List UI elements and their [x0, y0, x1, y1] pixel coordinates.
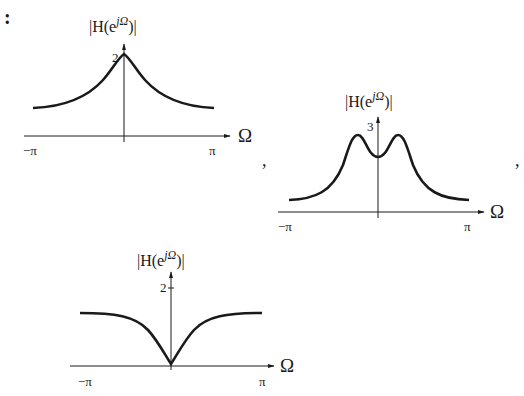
- plot-1-lowpass: |H(ejΩ)| 2 Ω −π π: [23, 14, 252, 158]
- x-tick-pi: π: [464, 219, 471, 234]
- separator-comma-2: ,: [515, 150, 520, 170]
- x-tick-neg-pi: −π: [278, 219, 292, 234]
- x-axis-label: Ω: [280, 355, 294, 376]
- x-tick-pi: π: [259, 374, 266, 389]
- magnitude-curve: [289, 135, 469, 200]
- y-axis-label: |H(ejΩ)|: [89, 14, 137, 36]
- x-axis-label: Ω: [490, 201, 504, 222]
- y-tick-2: 2: [112, 50, 119, 65]
- figure-canvas: : |H(ejΩ)| 2 Ω −π π , |H(ejΩ)| 3 Ω −π π …: [0, 0, 524, 396]
- y-axis-label: |H(ejΩ)|: [345, 89, 393, 111]
- plot-3-notch: |H(ejΩ)| 2 Ω −π π: [70, 248, 294, 389]
- y-tick-3: 3: [367, 119, 374, 134]
- plot-2-bandpass: |H(ejΩ)| 3 Ω −π π: [278, 89, 504, 234]
- x-tick-neg-pi: −π: [23, 143, 37, 158]
- y-axis-label: |H(ejΩ)|: [137, 248, 185, 270]
- x-tick-pi: π: [209, 143, 216, 158]
- x-tick-neg-pi: −π: [78, 374, 92, 389]
- leading-colon: :: [4, 6, 11, 28]
- x-axis-label: Ω: [238, 125, 252, 146]
- separator-comma-1: ,: [262, 150, 267, 170]
- y-tick-2: 2: [160, 280, 167, 295]
